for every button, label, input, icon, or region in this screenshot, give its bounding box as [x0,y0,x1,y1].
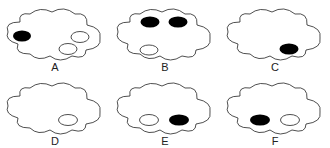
option-d[interactable]: D [0,74,110,148]
oval-hollow [59,115,78,126]
oval-filled [169,17,188,28]
oval-filled [280,44,299,55]
option-a[interactable]: A [0,0,110,74]
option-label: E [110,135,220,147]
oval-filled [141,17,160,28]
option-label: A [0,61,110,73]
option-e[interactable]: E [110,74,220,148]
oval-hollow [59,44,77,55]
oval-hollow [140,45,158,55]
oval-hollow [281,115,300,126]
oval-filled [250,115,270,126]
option-f[interactable]: F [220,74,330,148]
option-label: B [110,61,220,73]
oval-filled [169,115,189,126]
oval-hollow [140,115,159,126]
option-c[interactable]: C [220,0,330,74]
oval-hollow [71,32,89,43]
options-grid: A B C D E [0,0,330,148]
option-label: C [220,61,330,73]
option-label: F [220,135,330,147]
option-label: D [0,135,110,147]
option-b[interactable]: B [110,0,220,74]
oval-filled [13,31,31,42]
